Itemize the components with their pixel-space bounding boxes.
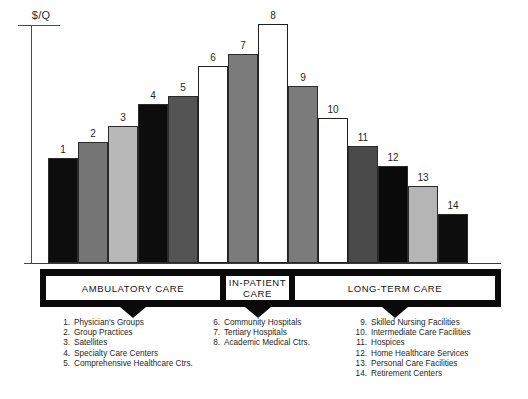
bar-chart-plot-area: 1234567891011121314 [0,0,528,264]
legend-item-label: Satellites [74,338,107,348]
bar-number-label: 6 [199,52,227,64]
chart-baseline [31,263,501,264]
legend-item-number: 5. [58,359,74,369]
legend-column-ambulatory: 1.Physician's Groups2.Group Practices3.S… [58,318,193,369]
legend-column-inpatient: 6.Community Hospitals7.Tertiary Hospital… [208,318,310,349]
legend-item: 1.Physician's Groups [58,318,193,328]
band-box-1: AMBULATORY CARE [45,275,221,301]
legend-item-label: Skilled Nursing Facilities [371,318,460,328]
bar-number-label: 2 [79,128,107,140]
legend-item: 8.Academic Medical Ctrs. [208,338,310,348]
legend-item: 7.Tertiary Hospitals [208,328,310,338]
legend-item-number: 8. [208,338,224,348]
bar-13: 13 [408,186,438,263]
legend-item: 9.Skilled Nursing Facilities [352,318,471,328]
bar-number-label: 8 [259,10,287,22]
legend-item-number: 4. [58,349,74,359]
bar-3: 3 [108,126,138,263]
band-box-3: LONG-TERM CARE [294,275,496,301]
legend-item-label: Academic Medical Ctrs. [224,338,310,348]
band-pointer-3 [382,307,408,318]
legend-item: 10.Intermediate Care Facilities [352,328,471,338]
bar-10: 10 [318,118,348,263]
bar-8: 8 [258,24,288,263]
band-pointer-1 [120,307,146,318]
bar-number-label: 14 [439,200,467,212]
legend-item-label: Comprehensive Healthcare Ctrs. [74,359,193,369]
legend-item-number: 2. [58,328,74,338]
legend-column-longterm: 9.Skilled Nursing Facilities10.Intermedi… [352,318,471,379]
band-label-line1: IN-PATIENT [229,277,286,288]
legend-item-number: 9. [352,318,371,328]
legend-item-label: Hospices [371,338,405,348]
legend-item-label: Intermediate Care Facilities [371,328,471,338]
bar-11: 11 [348,146,378,263]
bar-number-label: 7 [229,40,257,52]
bar-number-label: 1 [49,144,77,156]
legend-item: 12.Home Healthcare Services [352,349,471,359]
category-band: AMBULATORY CAREIN-PATIENTCARELONG-TERM C… [40,269,501,307]
bar-2: 2 [78,142,108,263]
figure-container: $/Q 1234567891011121314 AMBULATORY CAREI… [0,0,528,399]
bar-6: 6 [198,66,228,263]
legend-item-label: Personal Care Facilities [371,359,457,369]
bar-1: 1 [48,158,78,263]
legend-item: 11.Hospices [352,338,471,348]
band-label-line2: CARE [243,288,272,299]
bar-7: 7 [228,54,258,263]
bar-4: 4 [138,104,168,263]
band-label: LONG-TERM CARE [348,283,442,294]
legend-item-number: 7. [208,328,224,338]
legend-item: 3.Satellites [58,338,193,348]
legend-item: 2.Group Practices [58,328,193,338]
band-label: AMBULATORY CARE [82,283,184,294]
legend-item-label: Group Practices [74,328,133,338]
bar-number-label: 4 [139,90,167,102]
legend-item-number: 6. [208,318,224,328]
bar-number-label: 11 [349,132,377,144]
legend-item-label: Home Healthcare Services [371,349,468,359]
legend-item-number: 13. [352,359,371,369]
legend-item-label: Retirement Centers [371,369,442,379]
legend-item-number: 12. [352,349,371,359]
legend-item: 14.Retirement Centers [352,369,471,379]
bar-number-label: 3 [109,112,137,124]
legend-item-number: 3. [58,338,74,348]
legend-item-label: Physician's Groups [74,318,144,328]
band-box-2: IN-PATIENTCARE [225,275,290,301]
bar-number-label: 12 [379,152,407,164]
bar-number-label: 5 [169,82,197,94]
legend-item-number: 11. [352,338,371,348]
legend-item: 13.Personal Care Facilities [352,359,471,369]
bar-5: 5 [168,96,198,263]
legend-item-label: Tertiary Hospitals [224,328,287,338]
legend-item: 6.Community Hospitals [208,318,310,328]
legend: 1.Physician's Groups2.Group Practices3.S… [0,318,528,380]
bar-12: 12 [378,166,408,263]
legend-item-number: 14. [352,369,371,379]
bar-number-label: 10 [319,104,347,116]
legend-item-number: 10. [352,328,371,338]
bar-9: 9 [288,86,318,263]
legend-item-label: Community Hospitals [224,318,301,328]
legend-item: 4.Specialty Care Centers [58,349,193,359]
bar-14: 14 [438,214,468,263]
legend-item: 5.Comprehensive Healthcare Ctrs. [58,359,193,369]
figure-caption [26,385,506,397]
band-pointer-2 [245,307,271,318]
bar-number-label: 9 [289,72,317,84]
legend-item-label: Specialty Care Centers [74,349,158,359]
legend-item-number: 1. [58,318,74,328]
bar-number-label: 13 [409,172,437,184]
